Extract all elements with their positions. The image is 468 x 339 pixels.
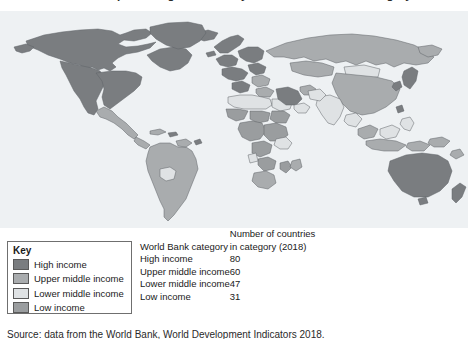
table-header-row: World Bank category Number of countries … — [140, 228, 315, 253]
world-map-svg — [0, 11, 468, 228]
legend-swatch-upper-middle-income — [13, 273, 29, 284]
table-header-count: Number of countries in category (2018) — [230, 228, 316, 253]
table-cell-count: 60 — [230, 266, 316, 279]
figure-title-strip: World map showing countries by World Ban… — [0, 0, 468, 11]
table-header-category: World Bank category — [140, 228, 230, 253]
legend-swatch-high-income — [13, 259, 29, 270]
legend-item-upper-middle-income: Upper middle income — [13, 272, 127, 287]
legend-title: Key — [13, 245, 127, 257]
table-header-count-line1: Number of countries — [230, 228, 316, 239]
table-row: Upper middle income 60 — [140, 266, 315, 279]
page-title: World map showing countries by World Ban… — [64, 0, 412, 1]
legend-label-upper-middle-income: Upper middle income — [34, 273, 124, 284]
legend-label-lower-middle-income: Lower middle income — [34, 288, 124, 299]
map-legend: Key High income Upper middle income Lowe… — [7, 241, 132, 314]
table-cell-count: 31 — [230, 291, 316, 304]
table-row: Low income 31 — [140, 291, 315, 304]
table-row: High income 80 — [140, 253, 315, 266]
table-cell-category: Lower middle income — [140, 278, 230, 291]
table-cell-category: Upper middle income — [140, 266, 230, 279]
figure-caption: Source: data from the World Bank, World … — [7, 329, 325, 339]
legend-item-low-income: Low income — [13, 301, 127, 316]
legend-label-high-income: High income — [34, 259, 87, 270]
legend-item-lower-middle-income: Lower middle income — [13, 286, 127, 301]
legend-swatch-lower-middle-income — [13, 288, 29, 299]
income-category-table: World Bank category Number of countries … — [140, 228, 310, 314]
table-cell-count: 47 — [230, 278, 316, 291]
world-map — [0, 11, 468, 228]
legend-label-low-income: Low income — [34, 302, 85, 313]
table-row: Lower middle income 47 — [140, 278, 315, 291]
figure-caption-strip: Source: data from the World Bank, World … — [0, 329, 468, 339]
legend-item-high-income: High income — [13, 257, 127, 272]
table-cell-category: Low income — [140, 291, 230, 304]
legend-swatch-low-income — [13, 302, 29, 313]
data-table: World Bank category Number of countries … — [140, 228, 315, 304]
table-cell-count: 80 — [230, 253, 316, 266]
table-header-count-line2: in category (2018) — [230, 241, 316, 254]
table-cell-category: High income — [140, 253, 230, 266]
